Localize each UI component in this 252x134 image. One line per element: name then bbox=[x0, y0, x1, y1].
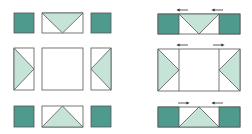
flying-geese-unit bbox=[91, 48, 111, 90]
corner-square bbox=[91, 106, 111, 127]
sewn-row-middle bbox=[158, 49, 240, 91]
left-panel bbox=[14, 13, 111, 127]
flying-geese-unit bbox=[42, 13, 83, 33]
quilt-diagram bbox=[0, 0, 252, 134]
flying-geese-unit bbox=[14, 48, 34, 90]
corner-square bbox=[91, 13, 111, 33]
sewn-row-top bbox=[158, 14, 240, 34]
corner-square bbox=[14, 106, 34, 127]
sewn-row-bottom bbox=[158, 107, 240, 127]
center-square bbox=[42, 48, 83, 90]
corner-square bbox=[14, 13, 34, 33]
right-panel bbox=[158, 14, 240, 127]
flying-geese-unit bbox=[42, 106, 83, 127]
